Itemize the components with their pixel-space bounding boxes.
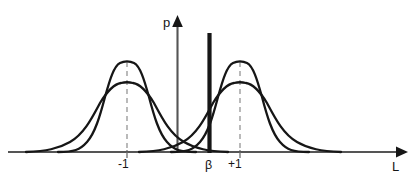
tick-label-minus-one: -1	[118, 158, 129, 170]
tick-label-beta: β	[205, 159, 212, 172]
plot-canvas	[0, 0, 413, 180]
tick-label-plus-one: +1	[228, 158, 242, 170]
gaussian-threshold-figure: p L -1 β +1	[0, 0, 413, 180]
y-axis-arrowhead	[172, 15, 183, 27]
x-axis-label: L	[392, 160, 399, 173]
y-axis-label: p	[163, 16, 170, 29]
x-axis-arrowhead	[396, 147, 408, 158]
